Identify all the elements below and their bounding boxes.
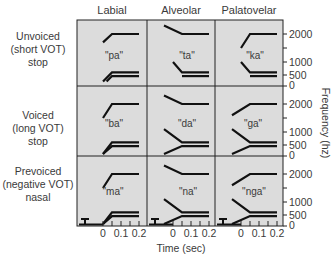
svg-text:(negative VOT): (negative VOT) bbox=[2, 178, 73, 190]
svg-text:stop: stop bbox=[28, 56, 48, 68]
row-label-voiced: Voiced (long VOT) stop bbox=[12, 109, 63, 147]
frequency-tick-2000: 2000 bbox=[289, 98, 313, 110]
time-tick-0.1: 0.1 bbox=[114, 227, 129, 239]
svg-text:stop: stop bbox=[28, 135, 48, 147]
syllable-ga: "ga" bbox=[244, 118, 263, 129]
frequency-tick-1000: 1000 bbox=[289, 196, 313, 208]
frequency-tick-2000: 2000 bbox=[289, 28, 313, 40]
frequency-axis bbox=[283, 34, 287, 226]
syllable-da: "da" bbox=[178, 118, 197, 129]
syllable-ma: "ma" bbox=[103, 186, 124, 197]
frequency-tick-0: 0 bbox=[289, 219, 295, 231]
formant-transition-figure: Labial Alveolar Palatovelar Unvoiced (sh… bbox=[0, 0, 334, 259]
frequency-tick-0: 0 bbox=[289, 79, 295, 91]
syllable-ka: "ka" bbox=[246, 50, 264, 61]
time-tick-0.2: 0.2 bbox=[202, 227, 217, 239]
svg-text:Unvoiced: Unvoiced bbox=[16, 30, 60, 42]
time-tick-0.1: 0.1 bbox=[184, 227, 199, 239]
frequency-tick-1000: 1000 bbox=[289, 126, 313, 138]
frequency-tick-0: 0 bbox=[289, 149, 295, 161]
time-tick-0: 0 bbox=[238, 227, 244, 239]
time-tick-labels: 00.10.200.10.200.10.2 bbox=[100, 227, 284, 239]
frequency-tick-labels: 200010005000200010005000200010005000 bbox=[289, 28, 313, 231]
time-tick-0: 0 bbox=[170, 227, 176, 239]
syllable-ta: "ta" bbox=[179, 50, 195, 61]
syllable-ba: "ba" bbox=[105, 118, 124, 129]
svg-text:(long VOT): (long VOT) bbox=[12, 122, 63, 134]
row-label-unvoiced: Unvoiced (short VOT) stop bbox=[11, 30, 66, 68]
frequency-tick-1000: 1000 bbox=[289, 56, 313, 68]
time-tick-0.2: 0.2 bbox=[132, 227, 147, 239]
time-tick-0.2: 0.2 bbox=[270, 227, 285, 239]
syllable-pa: "pa" bbox=[105, 50, 124, 61]
frequency-axis-label: Frequency (hz) bbox=[320, 88, 332, 159]
time-axis-label: Time (sec) bbox=[156, 242, 205, 254]
svg-text:Prevoiced: Prevoiced bbox=[15, 165, 62, 177]
svg-text:Voiced: Voiced bbox=[22, 109, 54, 121]
syllable-nga: "nga" bbox=[242, 186, 266, 197]
svg-text:nasal: nasal bbox=[25, 191, 50, 203]
svg-text:(short VOT): (short VOT) bbox=[11, 43, 66, 55]
column-header-alveolar: Alveolar bbox=[161, 4, 201, 16]
syllable-na: "na" bbox=[179, 186, 198, 197]
row-label-prevoiced: Prevoiced (negative VOT) nasal bbox=[2, 165, 73, 203]
column-header-labial: Labial bbox=[97, 4, 126, 16]
column-header-palatovelar: Palatovelar bbox=[221, 4, 276, 16]
time-tick-0.1: 0.1 bbox=[252, 227, 267, 239]
frequency-tick-2000: 2000 bbox=[289, 168, 313, 180]
time-tick-0: 0 bbox=[100, 227, 106, 239]
